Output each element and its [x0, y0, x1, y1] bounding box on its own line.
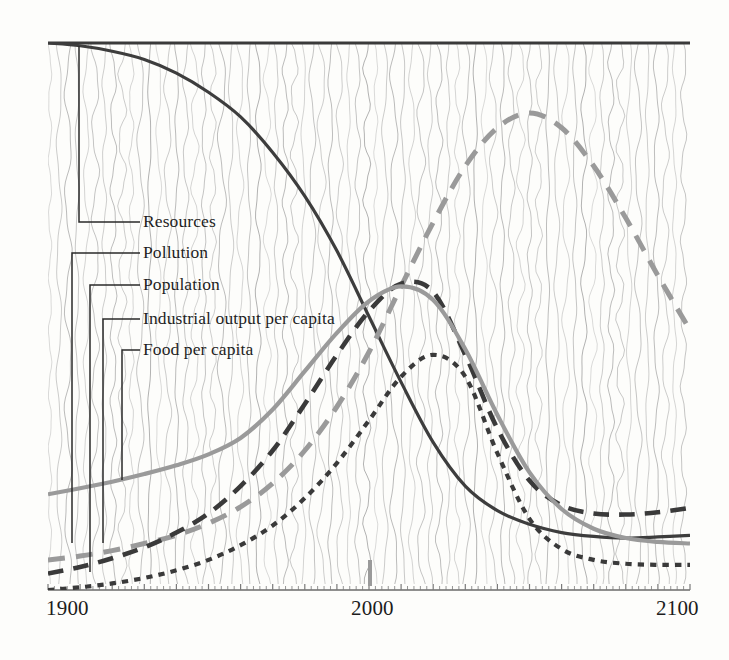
chart-canvas	[0, 0, 729, 660]
leader-line-food	[122, 350, 140, 480]
legend-label-population: Population	[143, 274, 220, 295]
legend-label-resources: Resources	[143, 211, 216, 232]
legend-label-food: Food per capita	[143, 339, 253, 360]
legend-label-industrial: Industrial output per capita	[143, 308, 335, 329]
x-tick-label-1900: 1900	[46, 596, 89, 621]
x-tick-label-2100: 2100	[656, 596, 699, 621]
x-tick-label-2000: 2000	[351, 596, 394, 621]
legend-label-pollution: Pollution	[143, 242, 208, 263]
chart-figure: Resources Pollution Population Industria…	[0, 0, 729, 660]
